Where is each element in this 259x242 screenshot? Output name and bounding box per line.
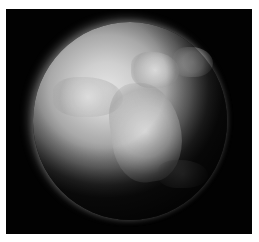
atmosphere-rim (33, 22, 227, 220)
planet-globe (33, 22, 227, 220)
space-background (6, 9, 252, 234)
